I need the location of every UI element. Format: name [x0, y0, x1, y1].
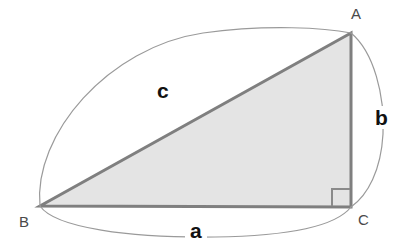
vertex-label-c: C	[358, 212, 369, 227]
triangle-shape	[40, 33, 351, 207]
side-label-c: c	[152, 79, 174, 102]
vertex-label-a: A	[351, 6, 361, 21]
diagram-canvas: A B C a b c	[0, 0, 405, 251]
vertex-label-b: B	[19, 214, 29, 229]
side-label-b: b	[370, 106, 393, 129]
side-label-a: a	[185, 219, 207, 242]
triangle-figure	[0, 0, 405, 251]
